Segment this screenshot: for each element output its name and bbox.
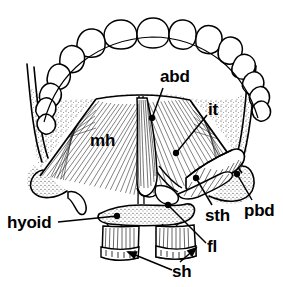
anatomical-figure: abditmhpbdsthflhyoidsh (0, 0, 283, 287)
label-fl: fl (207, 238, 217, 255)
label-sth-leader-dot (194, 176, 199, 181)
label-sh: sh (172, 263, 191, 280)
label-hyoid-leader-dot (115, 214, 120, 219)
label-sth: sth (205, 207, 230, 224)
label-pbd: pbd (244, 202, 275, 219)
label-it: it (208, 101, 218, 118)
anatomy-line-art (0, 0, 283, 287)
label-hyoid: hyoid (7, 214, 51, 231)
label-abd: abd (160, 68, 190, 85)
label-pbd-leader-dot (235, 172, 240, 177)
label-it-leader-dot (174, 151, 179, 156)
label-mh: mh (90, 132, 115, 149)
label-abd-leader-dot (150, 116, 155, 121)
label-fl-leader-dot (166, 203, 171, 208)
